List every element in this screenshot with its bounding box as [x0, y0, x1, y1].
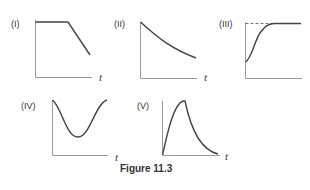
- curve: [163, 101, 219, 155]
- axes: [163, 101, 221, 156]
- panel-v: (V) t: [137, 101, 229, 162]
- figure-11-3: (I) t (II) t (III) (IV) t (V) t Figure 1…: [0, 0, 310, 190]
- curve: [36, 22, 91, 55]
- curve: [141, 22, 197, 58]
- panel-ii: (II) t: [114, 19, 208, 83]
- axes: [246, 22, 303, 79]
- t-axis-label: t: [225, 150, 229, 162]
- panel-label: (V): [137, 101, 149, 111]
- curve: [246, 24, 302, 63]
- figure-caption: Figure 11.3: [120, 163, 173, 174]
- axes: [53, 100, 109, 156]
- panel-label: (II): [114, 19, 125, 29]
- panel-iv: (IV) t: [21, 100, 119, 163]
- panel-label: (III): [219, 19, 233, 29]
- t-axis-label: t: [99, 71, 103, 83]
- panel-i: (I) t: [11, 19, 103, 83]
- panel-label: (IV): [21, 101, 36, 111]
- curve: [53, 100, 108, 137]
- t-axis-label: t: [204, 71, 208, 83]
- axes: [141, 22, 198, 79]
- panel-label: (I): [11, 19, 20, 29]
- axes: [36, 20, 93, 78]
- panel-iii: (III): [219, 19, 302, 79]
- t-axis-label: t: [115, 151, 119, 163]
